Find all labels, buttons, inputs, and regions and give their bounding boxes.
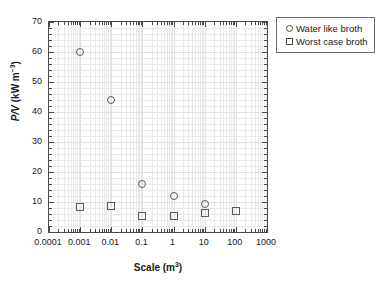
chart-figure: 0.00010.0010.010.11101001000 01020304050… <box>0 0 384 285</box>
x-tick-minor <box>95 229 96 232</box>
x-gridline-minor <box>258 22 259 232</box>
x-tick-major <box>267 227 268 232</box>
x-gridline-major <box>142 22 143 232</box>
y-gridline-minor <box>49 166 267 167</box>
y-tick-minor <box>49 76 52 77</box>
x-tick-minor-top <box>152 22 153 25</box>
x-gridline-minor <box>223 22 224 232</box>
x-tick-minor-top <box>58 22 59 25</box>
x-tick-minor <box>260 229 261 232</box>
x-gridline-minor <box>226 22 227 232</box>
data-point-circle <box>107 96 115 104</box>
y-tick-major <box>49 22 54 23</box>
x-tick-minor-top <box>167 22 168 25</box>
x-gridline-minor <box>106 22 107 232</box>
x-tick-label: 0.1 <box>135 237 148 247</box>
x-tick-minor-top <box>108 22 109 25</box>
x-tick-minor <box>161 229 162 232</box>
x-tick-minor <box>258 229 259 232</box>
x-tick-label: 10 <box>199 237 209 247</box>
x-gridline-minor <box>260 22 261 232</box>
x-gridline-minor <box>164 22 165 232</box>
y-tick-minor-right <box>264 100 267 101</box>
x-tick-major <box>236 227 237 232</box>
y-tick-minor <box>49 40 52 41</box>
y-tick-minor <box>49 208 52 209</box>
y-tick-minor-right <box>264 148 267 149</box>
x-tick-major <box>174 227 175 232</box>
y-tick-major <box>49 112 54 113</box>
x-tick-minor-top <box>75 22 76 25</box>
y-tick-minor <box>49 100 52 101</box>
x-gridline-major <box>111 22 112 232</box>
x-axis-title: Scale (m3) <box>48 261 268 273</box>
data-point-circle <box>76 48 84 56</box>
x-gridline-minor <box>73 22 74 232</box>
y-gridline-minor <box>49 178 267 179</box>
x-tick-minor <box>198 229 199 232</box>
x-tick-minor-top <box>121 22 122 25</box>
y-tick-minor-right <box>264 40 267 41</box>
x-tick-minor-top <box>195 22 196 25</box>
x-tick-label: 0.001 <box>68 237 91 247</box>
x-tick-minor-top <box>183 22 184 25</box>
x-gridline-minor <box>157 22 158 232</box>
y-tick-major-right <box>262 172 267 173</box>
x-tick-major-top <box>236 22 237 27</box>
x-gridline-minor <box>198 22 199 232</box>
x-tick-minor <box>58 229 59 232</box>
y-gridline-major <box>49 142 267 143</box>
y-gridline-minor <box>49 70 267 71</box>
x-tick-minor <box>104 229 105 232</box>
x-tick-minor-top <box>234 22 235 25</box>
y-tick-major <box>49 172 54 173</box>
y-tick-minor-right <box>264 130 267 131</box>
x-gridline-minor <box>262 22 263 232</box>
x-gridline-minor <box>152 22 153 232</box>
x-gridline-minor <box>99 22 100 232</box>
y-tick-minor-right <box>264 160 267 161</box>
x-tick-minor-top <box>214 22 215 25</box>
x-gridline-major <box>236 22 237 232</box>
x-gridline-major <box>174 22 175 232</box>
y-gridline-minor <box>49 226 267 227</box>
y-tick-minor <box>49 220 52 221</box>
x-tick-minor-top <box>106 22 107 25</box>
y-gridline-major <box>49 112 267 113</box>
x-tick-minor <box>203 229 204 232</box>
x-gridline-minor <box>195 22 196 232</box>
x-gridline-minor <box>102 22 103 232</box>
x-gridline-minor <box>71 22 72 232</box>
y-tick-minor-right <box>264 208 267 209</box>
y-tick-minor-right <box>264 190 267 191</box>
x-tick-minor-top <box>251 22 252 25</box>
y-tick-major-right <box>262 142 267 143</box>
x-tick-minor-top <box>71 22 72 25</box>
x-tick-minor-top <box>231 22 232 25</box>
x-tick-minor-top <box>90 22 91 25</box>
x-gridline-minor <box>234 22 235 232</box>
y-gridline-minor <box>49 190 267 191</box>
x-gridline-minor <box>229 22 230 232</box>
legend-label: Water like broth <box>296 23 362 34</box>
y-tick-major <box>49 232 54 233</box>
legend-square-icon <box>282 38 296 45</box>
y-tick-minor-right <box>264 118 267 119</box>
x-tick-minor-top <box>157 22 158 25</box>
y-gridline-minor <box>49 148 267 149</box>
y-tick-label: 70 <box>16 16 42 26</box>
y-tick-minor-right <box>264 28 267 29</box>
y-tick-minor <box>49 148 52 149</box>
x-tick-minor-top <box>68 22 69 25</box>
y-tick-major-right <box>262 52 267 53</box>
x-tick-minor <box>77 229 78 232</box>
x-tick-minor-top <box>258 22 259 25</box>
x-gridline-minor <box>90 22 91 232</box>
x-gridline-minor <box>95 22 96 232</box>
y-tick-minor <box>49 94 52 95</box>
x-tick-minor <box>121 229 122 232</box>
x-tick-major <box>80 227 81 232</box>
y-tick-minor-right <box>264 178 267 179</box>
y-gridline-major <box>49 172 267 173</box>
y-tick-minor-right <box>264 34 267 35</box>
